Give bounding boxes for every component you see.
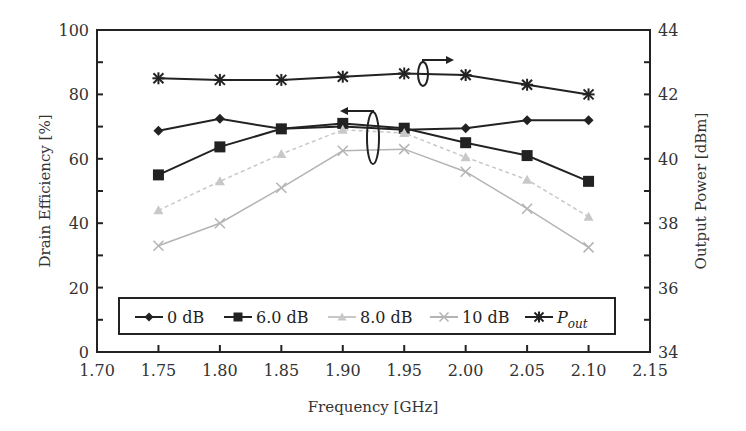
x-tick-label: 2.15 — [632, 361, 668, 380]
left-arrow — [345, 111, 373, 112]
diamond-marker — [215, 114, 225, 124]
y-right-tick-label: 38 — [658, 214, 678, 233]
y-tick-label: 80 — [69, 85, 89, 104]
x-tick-label: 1.75 — [141, 361, 177, 380]
square-marker — [522, 150, 533, 161]
square-marker — [460, 137, 471, 148]
right-arrow-head — [446, 56, 454, 64]
x-tick-label: 1.85 — [264, 361, 300, 380]
legend-label: 6.0 dB — [256, 308, 309, 327]
legend: 0 dB6.0 dB8.0 dB10 dBPout — [119, 298, 615, 334]
y-tick-label: 0 — [79, 343, 89, 362]
y-right-tick-label: 40 — [658, 150, 678, 169]
square-marker — [153, 169, 164, 180]
legend-label: 10 dB — [462, 308, 509, 327]
x-tick-label: 1.90 — [325, 361, 361, 380]
triangle-marker — [584, 212, 594, 221]
y-right-tick-label: 42 — [658, 85, 678, 104]
x-axis-title: Frequency [GHz] — [308, 398, 439, 416]
square-marker — [583, 176, 594, 187]
diamond-marker — [584, 115, 594, 125]
efficiency-power-chart: 1.701.751.801.851.901.952.002.052.102.15… — [0, 0, 746, 431]
diamond-marker — [461, 123, 471, 133]
legend-label: 8.0 dB — [360, 308, 413, 327]
series-8-0-db — [153, 125, 593, 221]
y-axis-title-left: Drain Efficiency [%] — [36, 114, 54, 267]
left-axis-indicator-ellipse — [367, 112, 379, 164]
triangle-marker — [522, 175, 532, 184]
y-tick-label: 20 — [69, 279, 89, 298]
square-marker — [214, 141, 225, 152]
y-tick-label: 40 — [69, 214, 89, 233]
triangle-marker — [276, 149, 286, 158]
annotations — [340, 56, 454, 164]
y-tick-label: 100 — [58, 21, 89, 40]
right-arrow — [423, 60, 448, 62]
triangle-marker — [153, 205, 163, 214]
legend-label: 0 dB — [167, 308, 204, 327]
y-axis-title-right: Output Power [dBm] — [692, 113, 710, 270]
diamond-marker — [153, 126, 163, 136]
square-marker — [234, 313, 243, 322]
y-tick-label: 60 — [69, 150, 89, 169]
x-tick-label: 2.10 — [571, 361, 607, 380]
x-tick-label: 1.95 — [386, 361, 422, 380]
series-pout — [152, 67, 594, 100]
left-arrow-head — [340, 107, 348, 115]
triangle-marker — [215, 176, 225, 185]
x-tick-label: 2.00 — [448, 361, 484, 380]
square-marker — [276, 123, 287, 134]
triangle-marker — [461, 152, 471, 161]
diamond-marker — [522, 115, 532, 125]
x-axis: 1.701.751.801.851.901.952.002.052.102.15 — [79, 345, 668, 380]
x-tick-label: 1.80 — [202, 361, 238, 380]
y-right-tick-label: 44 — [658, 21, 678, 40]
y-right-tick-label: 34 — [658, 343, 678, 362]
x-tick-label: 2.05 — [509, 361, 545, 380]
x-tick-label: 1.70 — [79, 361, 115, 380]
series-layer — [152, 67, 594, 252]
y-right-tick-label: 36 — [658, 279, 678, 298]
